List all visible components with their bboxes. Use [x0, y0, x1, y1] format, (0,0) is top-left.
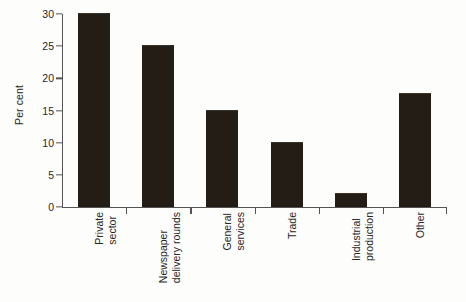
- x-category-label: Newspaperdelivery rounds: [126, 212, 190, 300]
- y-tick-label: 10: [42, 137, 54, 149]
- bar-3: [271, 142, 303, 207]
- y-axis-tick-labels: 051015202530: [30, 0, 54, 215]
- y-tick-mark: [56, 78, 62, 79]
- x-axis-category-labels: PrivatesectorNewspaperdelivery roundsGen…: [62, 212, 447, 302]
- x-category-label-line: Private: [94, 212, 106, 245]
- y-tick-label: 0: [48, 201, 54, 213]
- y-axis-title: Per cent: [6, 0, 32, 210]
- x-tick-mark: [319, 208, 320, 214]
- x-category-label-line: production: [363, 212, 375, 261]
- x-category-label: Other: [383, 212, 447, 300]
- x-category-label-line: sector: [107, 212, 119, 245]
- y-tick-mark: [56, 174, 62, 175]
- y-tick-mark: [56, 206, 62, 207]
- y-tick-label: 5: [48, 169, 54, 181]
- y-tick-label: 20: [42, 72, 54, 84]
- y-tick-label: 25: [42, 40, 54, 52]
- x-category-label: Trade: [255, 212, 319, 300]
- x-category-label-line: General: [222, 212, 234, 251]
- bar-2: [206, 110, 238, 208]
- y-tick-mark: [56, 46, 62, 47]
- x-category-label-line: Trade: [287, 212, 299, 239]
- x-category-label-line: Industrial: [351, 212, 363, 261]
- y-tick-mark: [56, 13, 62, 14]
- x-category-label-line: delivery rounds: [171, 212, 183, 283]
- bar-0: [78, 13, 110, 207]
- x-category-label: Generalservices: [190, 212, 254, 300]
- bar-1: [142, 45, 174, 207]
- bar-5: [399, 93, 431, 207]
- x-category-label-line: Newspaper: [158, 212, 170, 283]
- x-tick-mark: [190, 208, 191, 214]
- y-tick-label: 30: [42, 8, 54, 20]
- x-category-label-line: Other: [415, 212, 427, 238]
- x-category-label-line: services: [235, 212, 247, 251]
- bar-chart-figure: Per cent 051015202530 PrivatesectorNewsp…: [0, 0, 466, 302]
- y-tick-mark: [56, 110, 62, 111]
- x-tick-mark: [255, 208, 256, 214]
- x-category-label: Industrialproduction: [319, 212, 383, 300]
- bar-4: [335, 193, 367, 207]
- plot-area: [62, 14, 447, 207]
- x-tick-mark: [126, 208, 127, 214]
- y-tick-mark: [56, 142, 62, 143]
- x-category-label: Privatesector: [62, 212, 126, 300]
- x-tick-mark: [383, 208, 384, 214]
- x-tick-mark-end: [446, 208, 447, 214]
- y-tick-label: 15: [42, 105, 54, 117]
- y-axis-title-text: Per cent: [13, 85, 25, 125]
